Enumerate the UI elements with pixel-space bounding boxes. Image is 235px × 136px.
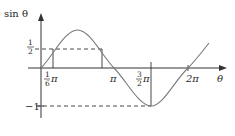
svg-text:3: 3 <box>137 70 142 79</box>
svg-text:2: 2 <box>28 47 33 56</box>
x-tick-pi-sixth: 1 6 π <box>44 70 58 88</box>
y-tick-minus-one: −1 <box>25 101 40 112</box>
x-axis-arrow-icon <box>219 65 227 71</box>
svg-text:1: 1 <box>45 70 50 79</box>
svg-text:2: 2 <box>137 79 142 88</box>
axes <box>28 18 222 118</box>
y-tick-half: 1 2 <box>27 38 34 56</box>
x-axis-label: θ <box>217 73 223 84</box>
y-axis-label: sin θ <box>4 8 28 19</box>
x-tick-pi: π <box>109 73 117 84</box>
svg-text:1: 1 <box>28 38 33 47</box>
sine-graph: sin θ θ 1 2 −1 1 6 π π 3 2 π 2π <box>0 0 235 136</box>
y-axis-arrow-icon <box>38 13 44 21</box>
svg-text:6: 6 <box>45 79 50 88</box>
x-tick-2pi: 2π <box>185 73 199 84</box>
svg-text:π: π <box>50 73 58 84</box>
svg-text:π: π <box>142 73 150 84</box>
x-tick-three-half-pi: 3 2 π <box>136 70 150 88</box>
